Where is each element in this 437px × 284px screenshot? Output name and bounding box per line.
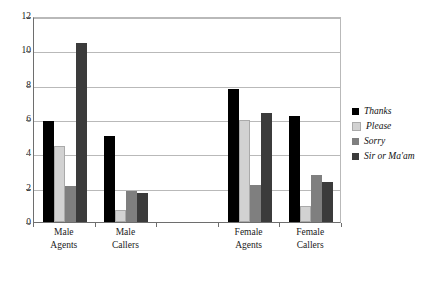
- bar: [65, 186, 76, 222]
- x-tick-mark: [341, 223, 342, 227]
- bar: [126, 191, 137, 222]
- bar: [137, 193, 148, 222]
- bar: [54, 146, 65, 222]
- legend-swatch-thanks: [352, 108, 359, 115]
- chart-legend: ThanksPleaseSorrySir or Ma'am: [352, 104, 437, 164]
- x-axis-label: FemaleCallers: [279, 226, 341, 252]
- y-axis: 121086420: [0, 17, 31, 223]
- x-axis-category-labels: MaleAgentsMaleCallersFemaleAgentsFemaleC…: [33, 226, 341, 266]
- bar-group: [219, 18, 281, 222]
- legend-label: Sir or Ma'am: [364, 152, 415, 162]
- bar: [250, 185, 261, 222]
- legend-item: Sir or Ma'am: [352, 149, 437, 164]
- x-tick-mark: [156, 223, 157, 227]
- x-axis-label: FemaleAgents: [218, 226, 280, 252]
- x-axis-label-line: Male: [33, 226, 95, 239]
- legend-swatch-sir-or-maam: [352, 153, 359, 160]
- y-tick-mark-12: [26, 17, 31, 18]
- legend-swatch-sorry: [352, 138, 359, 145]
- bar: [300, 206, 311, 222]
- bar: [239, 120, 250, 222]
- bar: [228, 89, 239, 222]
- bar: [104, 136, 115, 222]
- x-axis-label-line: Agents: [33, 239, 95, 252]
- x-axis-label-line: Female: [279, 226, 341, 239]
- bar-group: [280, 18, 342, 222]
- bar-group: [34, 18, 96, 222]
- bar: [43, 121, 54, 222]
- x-axis-label-line: Callers: [95, 239, 157, 252]
- bars-layer: [34, 18, 340, 222]
- legend-label: Please: [366, 122, 391, 132]
- x-axis-label-line: Agents: [218, 239, 280, 252]
- plot-area: [33, 17, 341, 223]
- y-tick-mark-2: [26, 189, 31, 190]
- y-tick-mark-0: [26, 223, 31, 224]
- bar-group: [96, 18, 158, 222]
- legend-item: Please: [352, 119, 437, 134]
- legend-item: Thanks: [352, 104, 437, 119]
- bar: [322, 182, 333, 222]
- y-tick-mark-6: [26, 120, 31, 121]
- legend-swatch-please: [352, 122, 361, 131]
- legend-item: Sorry: [352, 134, 437, 149]
- legend-label: Sorry: [364, 137, 385, 147]
- x-axis-label-line: Male: [95, 226, 157, 239]
- bar: [311, 175, 322, 222]
- x-axis-label: MaleCallers: [95, 226, 157, 252]
- y-tick-mark-4: [26, 154, 31, 155]
- bar-group: [157, 18, 219, 222]
- y-tick-mark-8: [26, 86, 31, 87]
- bar: [261, 113, 272, 222]
- bar: [289, 116, 300, 222]
- bar: [76, 43, 87, 222]
- x-axis-label-line: Female: [218, 226, 280, 239]
- y-tick-mark-10: [26, 51, 31, 52]
- bar: [115, 210, 126, 222]
- x-axis-label-line: Callers: [279, 239, 341, 252]
- bar-chart: 121086420 MaleAgentsMaleCallersFemaleAge…: [0, 0, 437, 284]
- x-axis-label: MaleAgents: [33, 226, 95, 252]
- legend-label: Thanks: [364, 107, 391, 117]
